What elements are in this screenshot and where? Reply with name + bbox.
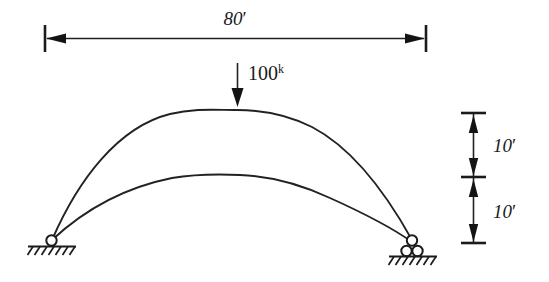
span-dimension-group: 80′ [45,8,426,52]
span-left-arrowhead-icon [46,34,66,44]
arch-diagram-figure: 80′ 100k [0,0,549,282]
roller-support-hatching [389,257,437,266]
arch-members-group [52,110,412,242]
rise-upper-dimension-label: 10′ [493,135,516,156]
point-load-group: 100k [232,62,285,107]
rise-lower-top-arrowhead-icon [469,179,478,197]
rise-upper-bottom-arrowhead-icon [469,158,478,176]
lower-arch-curve [52,174,412,242]
roller-support-right-roller-icon [412,246,422,256]
span-right-arrowhead-icon [405,34,425,44]
rise-lower-dimension-label: 10′ [493,201,516,222]
left-pin-support-group [28,235,77,255]
roller-support-hinge-icon [407,235,417,245]
roller-support-left-roller-icon [401,246,411,256]
pin-support-hinge-icon [46,235,56,245]
right-roller-support-group [389,235,438,265]
load-arrowhead-icon [232,88,244,107]
pin-support-hatching [28,247,76,256]
span-dimension-label: 80′ [223,8,246,29]
diagram-canvas: 80′ 100k [0,0,549,282]
rise-dimension-group: 10′ 10′ [461,113,516,243]
rise-lower-bottom-arrowhead-icon [469,224,478,242]
rise-upper-top-arrowhead-icon [469,115,478,133]
load-magnitude-label: 100k [248,62,284,84]
